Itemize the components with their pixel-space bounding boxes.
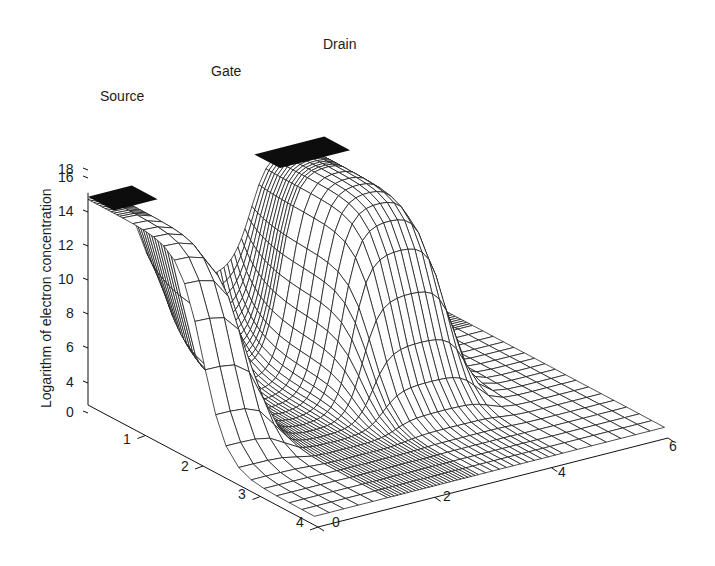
z-tick-8: 8: [66, 305, 74, 321]
mesh-surface: [0, 0, 715, 566]
z-tick-mark: [83, 278, 88, 280]
depth-tick-4: 4: [296, 514, 304, 530]
z-tick-6: 6: [66, 339, 74, 355]
z-tick-0: 0: [66, 404, 74, 420]
length-tick-0: 0: [332, 514, 340, 530]
z-axis-label: Logarithm of electron concentration: [38, 189, 54, 408]
depth-tick-2: 2: [181, 458, 189, 474]
annotation-gate: Gate: [211, 63, 241, 79]
z-tick-mark: [83, 411, 88, 413]
z-tick-mark: [83, 210, 88, 212]
depth-tick-mark: [253, 497, 261, 500]
surface-plot: Source Gate Drain Logarithm of electron …: [0, 0, 715, 566]
z-tick-mark: [83, 346, 88, 348]
z-tick-16: 16: [58, 169, 74, 185]
z-tick-mark: [83, 168, 88, 170]
z-tick-14: 14: [58, 203, 74, 219]
z-tick-mark: [83, 176, 88, 178]
depth-tick-mark: [195, 466, 203, 469]
z-tick-12: 12: [58, 237, 74, 253]
length-tick-mark: [551, 468, 557, 472]
source-top-cap: [88, 186, 158, 211]
depth-tick-1: 1: [123, 431, 131, 447]
length-tick-mark: [435, 497, 441, 501]
annotation-drain: Drain: [323, 36, 356, 52]
z-tick-mark: [83, 381, 88, 383]
depth-tick-mark: [310, 527, 318, 530]
annotation-source: Source: [100, 88, 144, 104]
z-tick-mark: [83, 244, 88, 246]
length-tick-6: 6: [669, 438, 677, 454]
z-tick-4: 4: [66, 374, 74, 390]
length-tick-2: 2: [443, 488, 451, 504]
z-tick-10: 10: [58, 271, 74, 287]
length-tick-mark: [318, 527, 324, 531]
z-tick-mark: [83, 312, 88, 314]
depth-tick-3: 3: [238, 486, 246, 502]
depth-tick-mark: [138, 436, 146, 439]
length-tick-4: 4: [558, 464, 566, 480]
